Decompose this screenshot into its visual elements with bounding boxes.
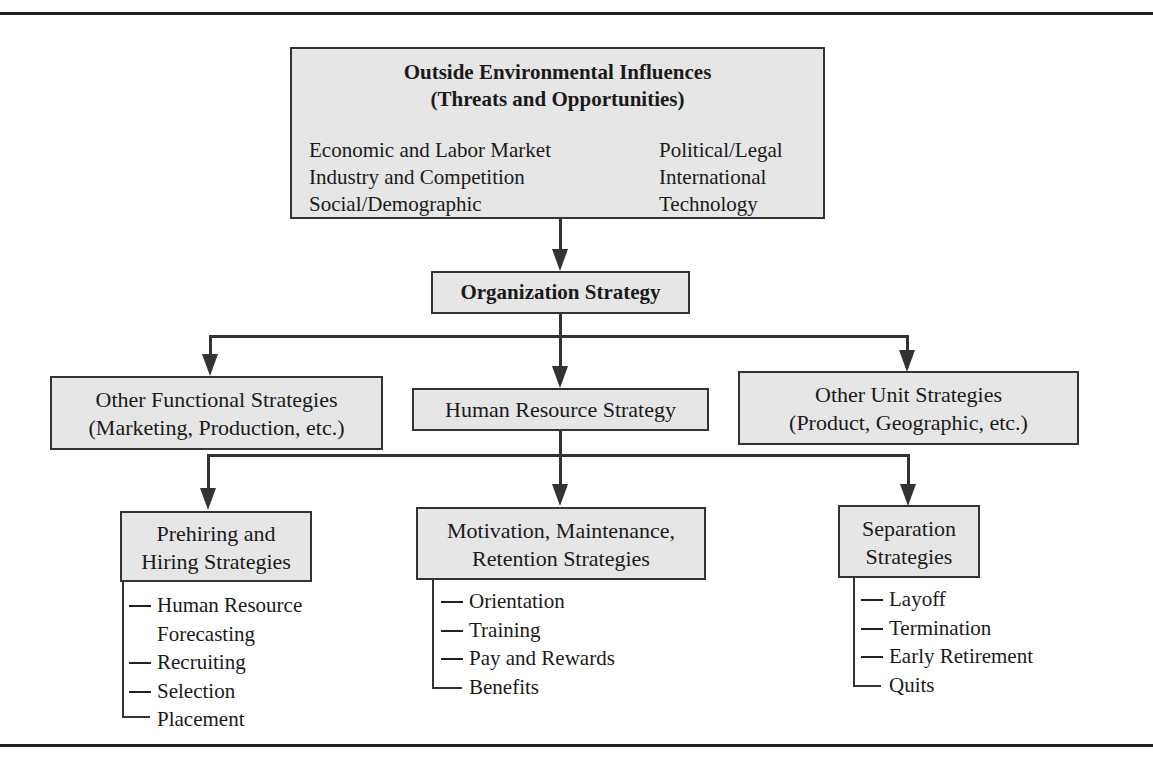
separation-line2: Strategies: [840, 543, 978, 571]
arrow-down-icon: [899, 350, 915, 372]
dash-icon: [129, 605, 151, 607]
list-item: Recruiting: [129, 648, 302, 677]
list-item: Selection: [129, 677, 302, 706]
human-resource-strategy-box: Human Resource Strategy: [412, 388, 709, 431]
dash-icon: [441, 658, 463, 660]
list-item: Termination: [861, 614, 1033, 643]
connector-line: [559, 219, 562, 251]
connector-line: [559, 430, 562, 486]
bracket-line: [122, 581, 124, 718]
prehiring-hiring-strategies-box: Prehiring and Hiring Strategies: [120, 511, 312, 582]
dash-icon: [129, 691, 151, 693]
other-functional-strategies-box: Other Functional Strategies (Marketing, …: [50, 376, 383, 450]
unit-line2: (Product, Geographic, etc.): [740, 409, 1077, 437]
list-item: Forecasting: [129, 620, 302, 649]
dash-icon: [129, 662, 151, 664]
connector-line: [559, 313, 562, 368]
list-item: Quits: [861, 671, 1033, 700]
list-item: Human Resource: [129, 591, 302, 620]
motivation-retention-strategies-box: Motivation, Maintenance, Retention Strat…: [416, 507, 706, 580]
env-item: International: [659, 164, 783, 191]
arrow-down-icon: [202, 354, 218, 376]
dash-icon: [861, 599, 883, 601]
arrow-down-icon: [552, 366, 568, 388]
list-item: Placement: [129, 705, 302, 734]
organization-strategy-box: Organization Strategy: [431, 271, 690, 314]
dash-icon: [441, 601, 463, 603]
arrow-down-icon: [200, 488, 216, 510]
motivation-line1: Motivation, Maintenance,: [418, 517, 704, 545]
prehiring-line2: Hiring Strategies: [122, 548, 310, 576]
bottom-rule: [0, 744, 1153, 747]
list-item: Layoff: [861, 585, 1033, 614]
environmental-influences-box: Outside Environmental Influences (Threat…: [290, 47, 825, 219]
bracket-line: [432, 579, 434, 689]
motivation-line2: Retention Strategies: [418, 545, 704, 573]
unit-line1: Other Unit Strategies: [740, 381, 1077, 409]
env-right-column: Political/Legal International Technology: [659, 137, 783, 218]
env-item: Economic and Labor Market: [309, 137, 551, 164]
connector-line: [907, 454, 910, 486]
dash-icon: [861, 656, 883, 658]
list-item: Training: [441, 616, 615, 645]
other-unit-strategies-box: Other Unit Strategies (Product, Geograph…: [738, 371, 1079, 445]
arrow-down-icon: [900, 484, 916, 506]
functional-line2: (Marketing, Production, etc.): [52, 414, 381, 442]
env-item: Technology: [659, 191, 783, 218]
separation-sublist: Layoff Termination Early Retirement Quit…: [861, 585, 1033, 699]
top-rule: [0, 12, 1153, 15]
connector-line: [209, 335, 212, 355]
connector-line: [207, 454, 910, 457]
organization-strategy-label: Organization Strategy: [460, 280, 660, 304]
env-item: Social/Demographic: [309, 191, 551, 218]
separation-line1: Separation: [840, 515, 978, 543]
connector-line: [207, 454, 210, 490]
bracket-line: [853, 577, 855, 687]
env-left-column: Economic and Labor Market Industry and C…: [309, 137, 551, 218]
prehiring-line1: Prehiring and: [122, 520, 310, 548]
dash-icon: [441, 630, 463, 632]
separation-strategies-box: Separation Strategies: [838, 505, 980, 578]
list-item: Orientation: [441, 587, 615, 616]
env-item: Industry and Competition: [309, 164, 551, 191]
motivation-sublist: Orientation Training Pay and Rewards Ben…: [441, 587, 615, 701]
env-title-line2: (Threats and Opportunities): [292, 86, 823, 113]
functional-line1: Other Functional Strategies: [52, 386, 381, 414]
list-item: Pay and Rewards: [441, 644, 615, 673]
env-item: Political/Legal: [659, 137, 783, 164]
list-item: Early Retirement: [861, 642, 1033, 671]
arrow-down-icon: [552, 249, 568, 271]
prehiring-sublist: Human Resource Forecasting Recruiting Se…: [129, 591, 302, 734]
arrow-down-icon: [552, 484, 568, 506]
env-title-line1: Outside Environmental Influences: [292, 59, 823, 86]
hr-strategy-label: Human Resource Strategy: [445, 397, 676, 422]
list-item: Benefits: [441, 673, 615, 702]
dash-icon: [861, 628, 883, 630]
connector-line: [209, 335, 909, 338]
